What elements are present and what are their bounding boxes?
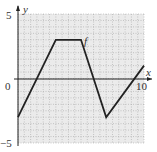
chart-plot: [0, 0, 157, 152]
x-tick-0: 0: [5, 80, 11, 92]
x-tick-10: 10: [136, 80, 147, 92]
x-axis-label: x: [146, 66, 151, 78]
y-axis-label: y: [23, 3, 28, 15]
y-axis-arrow-icon: [16, 5, 20, 11]
y-tick-5: 5: [6, 9, 12, 21]
function-label: f: [84, 35, 87, 47]
y-tick-neg5: −5: [0, 137, 12, 149]
